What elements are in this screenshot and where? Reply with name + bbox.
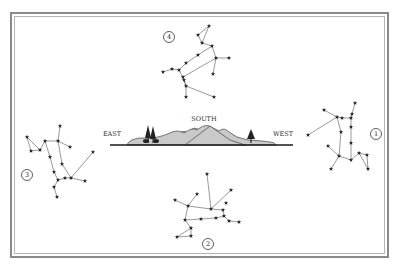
star-icon <box>182 78 186 82</box>
constellation-4: 4 <box>161 24 231 99</box>
star-icon <box>227 56 231 60</box>
star-icon <box>170 67 174 71</box>
star-icon <box>214 216 218 220</box>
constellation-line <box>352 103 355 114</box>
star-icon <box>60 162 64 166</box>
constellation-line <box>58 141 62 164</box>
constellation-line <box>45 141 50 157</box>
star-icon <box>212 95 216 99</box>
star-icon <box>224 201 228 205</box>
star-icon <box>196 33 200 37</box>
constellation-number-label: 3 <box>25 171 29 179</box>
direction-label-west: WEST <box>273 130 294 138</box>
star-icon <box>52 170 56 174</box>
star-icon <box>183 218 187 222</box>
constellation-line <box>54 187 57 197</box>
star-icon <box>48 155 52 159</box>
constellation-2: 2 <box>173 172 241 250</box>
constellation-line <box>177 228 191 237</box>
constellation-line <box>179 70 184 80</box>
star-chart: EASTSOUTHWEST 4132 <box>0 0 402 269</box>
star-icon <box>366 167 370 171</box>
constellation-1: 1 <box>306 101 382 171</box>
star-icon <box>29 149 33 153</box>
star-icon <box>184 95 188 99</box>
star-icon <box>353 101 357 105</box>
star-icon <box>211 72 215 76</box>
star-icon <box>199 217 203 221</box>
constellation-line <box>50 157 54 172</box>
star-icon <box>189 234 193 238</box>
star-icon <box>83 179 87 183</box>
star-icon <box>195 192 199 196</box>
constellation-line <box>324 110 337 117</box>
star-icon <box>55 195 59 199</box>
star-icon <box>52 185 56 189</box>
constellation-line <box>337 117 341 132</box>
constellation-number-label: 4 <box>167 33 171 41</box>
constellation-line <box>71 152 93 178</box>
constellation-line <box>213 58 216 74</box>
constellation-line <box>328 146 339 156</box>
constellation-diagram: EASTSOUTHWEST 4132 <box>0 0 402 269</box>
direction-label-east: EAST <box>103 130 122 138</box>
direction-label-south: SOUTH <box>191 115 217 123</box>
constellation-line <box>71 178 85 181</box>
constellation-line <box>62 164 71 178</box>
star-icon <box>173 198 177 202</box>
constellation-line <box>198 46 212 55</box>
constellation-number-label: 2 <box>206 240 210 248</box>
star-icon <box>200 41 204 45</box>
constellation-line <box>212 46 216 58</box>
star-icon <box>63 176 67 180</box>
horizon-scene: EASTSOUTHWEST <box>103 115 294 145</box>
star-icon <box>340 116 344 120</box>
constellation-line <box>186 55 198 63</box>
constellation-number-label: 1 <box>374 130 378 138</box>
star-icon <box>237 220 241 224</box>
constellation-line <box>58 141 70 147</box>
constellation-line <box>207 174 211 209</box>
constellation-line <box>188 194 197 206</box>
constellation-line <box>339 132 341 156</box>
constellation-line <box>186 86 214 97</box>
constellation-line <box>185 206 188 220</box>
constellation-line <box>308 117 337 135</box>
constellation-line <box>188 206 211 209</box>
constellation-line <box>211 190 231 209</box>
constellation-3: 3 <box>22 124 96 199</box>
star-icon <box>56 178 60 182</box>
star-icon <box>306 133 310 137</box>
star-icon <box>322 108 326 112</box>
star-icon <box>329 167 333 171</box>
constellation-line <box>58 126 60 141</box>
constellation-line <box>175 200 188 206</box>
star-icon <box>161 70 165 74</box>
star-icon <box>43 139 47 143</box>
constellation-line <box>183 58 216 77</box>
constellation-line <box>351 153 359 160</box>
star-icon <box>68 145 72 149</box>
constellation-line <box>185 219 201 220</box>
constellation-line <box>201 218 216 219</box>
star-icon <box>175 235 179 239</box>
constellation-line <box>331 156 339 169</box>
constellation-line <box>177 236 191 237</box>
star-icon <box>91 150 95 154</box>
